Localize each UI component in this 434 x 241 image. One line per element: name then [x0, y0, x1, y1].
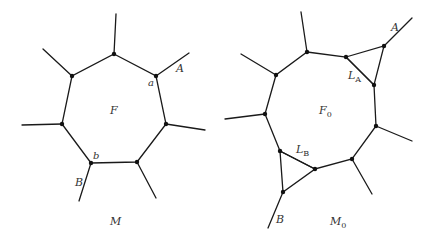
vertex-dot — [70, 74, 74, 78]
spoke-upper-left — [241, 54, 276, 75]
spoke-top — [114, 14, 116, 54]
diagram-canvas: F a b A B M F0 LA LB A B M0 — [0, 0, 434, 241]
left-figure: F a b A B M — [22, 14, 205, 228]
spoke-top — [301, 12, 307, 52]
vertex-dot — [350, 157, 354, 161]
vertex-dot — [60, 122, 64, 126]
face-label-F0: F0 — [318, 104, 332, 119]
vertex-b-dot — [89, 161, 93, 165]
triangle-label-LA: LA — [347, 69, 361, 84]
vertex-dot — [263, 112, 267, 116]
vertex-dot — [344, 55, 348, 59]
edge-label-B: B — [74, 176, 83, 189]
spoke-A — [156, 53, 189, 76]
spoke-bottom-right — [352, 159, 372, 194]
edge-label-A: A — [390, 21, 399, 34]
edge-label-B: B — [275, 213, 284, 226]
caption-M0: M0 — [329, 215, 346, 230]
vertex-label-a: a — [148, 77, 154, 88]
vertex-dot — [313, 167, 317, 171]
spoke-bottom-right — [137, 162, 156, 198]
vertex-dot — [274, 73, 278, 77]
edge-label-A: A — [175, 62, 184, 75]
caption-M: M — [109, 215, 122, 228]
spoke-upper-left — [43, 49, 72, 76]
vertex-dot — [135, 160, 139, 164]
vertex-dot — [305, 50, 309, 54]
vertex-label-b: b — [93, 150, 99, 161]
face-label-F: F — [109, 104, 118, 117]
vertex-dot — [164, 122, 168, 126]
vertex-dot — [374, 124, 378, 128]
vertex-dot — [112, 52, 116, 56]
vertex-a-dot — [154, 74, 158, 78]
triangle-label-LB: LB — [295, 143, 309, 158]
vertex-dot — [278, 149, 282, 153]
right-figure: F0 LA LB A B M0 — [225, 12, 412, 230]
spoke-left — [225, 114, 265, 119]
vertex-dot — [372, 83, 376, 87]
triangle-L-B — [280, 151, 315, 192]
vertex-dot — [382, 44, 386, 48]
spoke-left — [22, 124, 62, 125]
vertex-dot — [281, 190, 285, 194]
spoke-right — [166, 124, 205, 130]
spoke-right — [376, 126, 412, 141]
